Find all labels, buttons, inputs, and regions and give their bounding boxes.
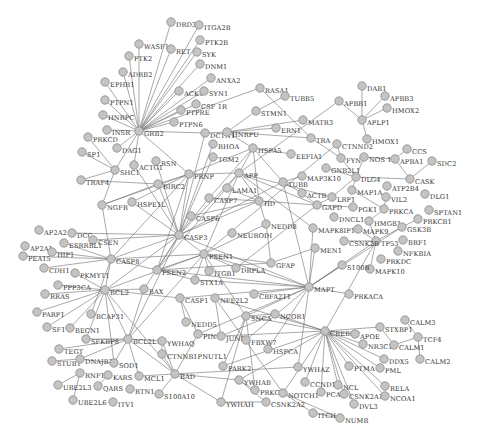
node-circle-icon[interactable] bbox=[298, 189, 306, 197]
node-circle-icon[interactable] bbox=[228, 229, 236, 237]
node-circle-icon[interactable] bbox=[167, 18, 175, 26]
node-circle-icon[interactable] bbox=[167, 45, 175, 53]
node-circle-icon[interactable] bbox=[349, 203, 357, 211]
node-bad[interactable]: BAD bbox=[171, 370, 195, 381]
node-circle-icon[interactable] bbox=[328, 193, 336, 201]
node-circle-icon[interactable] bbox=[242, 312, 250, 320]
node-itv1[interactable]: ITV1 bbox=[109, 398, 135, 409]
node-apbb1[interactable]: APBB1 bbox=[335, 97, 368, 108]
node-circle-icon[interactable] bbox=[383, 182, 391, 190]
node-circle-icon[interactable] bbox=[414, 215, 422, 223]
node-neurodi[interactable]: NEURODI bbox=[228, 229, 273, 240]
node-lama1[interactable]: LAMA1 bbox=[223, 184, 258, 195]
node-psen2[interactable]: PSEN2 bbox=[153, 266, 186, 277]
node-kars[interactable]: KARS bbox=[104, 371, 133, 382]
node-circle-icon[interactable] bbox=[381, 382, 389, 390]
node-pin1[interactable]: PIN1 bbox=[194, 330, 221, 341]
node-sp1[interactable]: SP1 bbox=[78, 148, 101, 159]
node-itga2b[interactable]: ITGA2B bbox=[195, 21, 231, 32]
node-tubb5[interactable]: TUBB5 bbox=[281, 92, 315, 103]
node-circle-icon[interactable] bbox=[299, 116, 307, 124]
node-notch1[interactable]: NOTCH1 bbox=[279, 389, 319, 400]
node-circle-icon[interactable] bbox=[335, 97, 343, 105]
node-circle-icon[interactable] bbox=[66, 324, 74, 332]
node-anxa2[interactable]: ANXA2 bbox=[207, 74, 241, 85]
node-circle-icon[interactable] bbox=[111, 166, 119, 174]
node-circle-icon[interactable] bbox=[76, 355, 84, 363]
node-circle-icon[interactable] bbox=[232, 264, 240, 272]
node-dnm1[interactable]: DNM1 bbox=[196, 60, 228, 71]
node-circle-icon[interactable] bbox=[381, 92, 389, 100]
node-ptma[interactable]: PTMA bbox=[345, 362, 375, 373]
node-circle-icon[interactable] bbox=[279, 389, 287, 397]
node-circle-icon[interactable] bbox=[191, 276, 199, 284]
node-circle-icon[interactable] bbox=[399, 236, 407, 244]
node-pkmyt1[interactable]: PKMYT1 bbox=[71, 269, 110, 280]
node-circle-icon[interactable] bbox=[223, 128, 231, 136]
node-circle-icon[interactable] bbox=[126, 385, 134, 393]
node-circle-icon[interactable] bbox=[201, 129, 209, 137]
node-dlg4[interactable]: DLG4 bbox=[352, 173, 381, 184]
node-circle-icon[interactable] bbox=[345, 290, 353, 298]
node-prnp[interactable]: PRNP bbox=[185, 170, 215, 181]
node-circle-icon[interactable] bbox=[125, 52, 133, 60]
node-circle-icon[interactable] bbox=[382, 193, 390, 201]
node-circle-icon[interactable] bbox=[381, 392, 389, 400]
node-circle-icon[interactable] bbox=[223, 184, 231, 192]
node-bcap31[interactable]: BCAP31 bbox=[87, 310, 124, 321]
node-circle-icon[interactable] bbox=[87, 310, 95, 318]
node-circle-icon[interactable] bbox=[340, 390, 348, 398]
node-circle-icon[interactable] bbox=[200, 250, 208, 258]
node-apba1[interactable]: APBA1 bbox=[391, 155, 424, 166]
node-circle-icon[interactable] bbox=[348, 186, 356, 194]
node-circle-icon[interactable] bbox=[135, 40, 143, 48]
node-circle-icon[interactable] bbox=[376, 364, 384, 372]
node-stxbp1[interactable]: STXBP1 bbox=[376, 323, 413, 334]
node-circle-icon[interactable] bbox=[71, 269, 79, 277]
node-circle-icon[interactable] bbox=[249, 144, 257, 152]
node-circle-icon[interactable] bbox=[360, 153, 368, 161]
node-circle-icon[interactable] bbox=[255, 197, 263, 205]
node-tgm2[interactable]: TGM2 bbox=[209, 153, 239, 164]
node-sf1[interactable]: SF1 bbox=[43, 323, 66, 334]
node-ephb1[interactable]: EPHB1 bbox=[101, 78, 135, 89]
node-circle-icon[interactable] bbox=[54, 381, 62, 389]
node-circle-icon[interactable] bbox=[21, 242, 29, 250]
node-circle-icon[interactable] bbox=[101, 78, 109, 86]
node-circle-icon[interactable] bbox=[334, 381, 342, 389]
node-circle-icon[interactable] bbox=[317, 388, 325, 396]
node-parp1[interactable]: PARP1 bbox=[33, 308, 65, 319]
node-circle-icon[interactable] bbox=[82, 335, 90, 343]
node-circle-icon[interactable] bbox=[252, 107, 260, 115]
node-circle-icon[interactable] bbox=[406, 175, 414, 183]
node-circle-icon[interactable] bbox=[98, 201, 106, 209]
node-becn1[interactable]: BECN1 bbox=[66, 324, 100, 335]
node-circle-icon[interactable] bbox=[140, 285, 148, 293]
node-circle-icon[interactable] bbox=[271, 310, 279, 318]
node-cbfa2t1[interactable]: CBFA2T1 bbox=[250, 290, 291, 301]
node-circle-icon[interactable] bbox=[94, 382, 102, 390]
node-itgb1[interactable]: ITGB1 bbox=[205, 267, 236, 278]
node-circle-icon[interactable] bbox=[84, 133, 92, 141]
node-circle-icon[interactable] bbox=[154, 180, 162, 188]
node-circle-icon[interactable] bbox=[377, 255, 385, 263]
node-circle-icon[interactable] bbox=[211, 294, 219, 302]
node-circle-icon[interactable] bbox=[350, 400, 358, 408]
node-circle-icon[interactable] bbox=[176, 294, 184, 302]
node-circle-icon[interactable] bbox=[209, 140, 217, 148]
node-circle-icon[interactable] bbox=[196, 60, 204, 68]
node-circle-icon[interactable] bbox=[352, 173, 360, 181]
node-circle-icon[interactable] bbox=[272, 124, 280, 132]
node-circle-icon[interactable] bbox=[68, 229, 76, 237]
node-tcf4[interactable]: TCF4 bbox=[414, 333, 442, 344]
node-circle-icon[interactable] bbox=[205, 267, 213, 275]
node-aplp1[interactable]: APLP1 bbox=[358, 116, 390, 127]
node-dnajb1[interactable]: DNAJB1 bbox=[76, 355, 113, 366]
node-ptpn6[interactable]: PTPN6 bbox=[170, 118, 203, 129]
node-circle-icon[interactable] bbox=[103, 126, 111, 134]
node-circle-icon[interactable] bbox=[135, 127, 143, 135]
node-tegt[interactable]: TEGT bbox=[55, 345, 84, 356]
node-ywhaq[interactable]: YWHAQ bbox=[158, 337, 195, 348]
node-circle-icon[interactable] bbox=[358, 116, 366, 124]
node-ern1[interactable]: ERN1 bbox=[272, 124, 301, 135]
